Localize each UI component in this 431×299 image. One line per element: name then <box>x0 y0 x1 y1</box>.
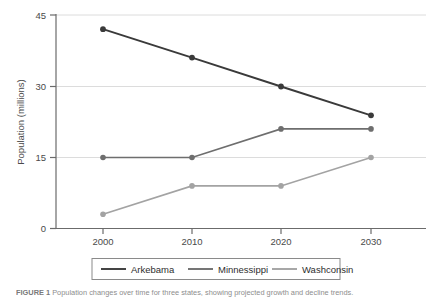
x-axis-ticks <box>103 229 371 235</box>
x-tick-label-2030: 2030 <box>360 236 381 247</box>
data-point <box>278 84 284 90</box>
legend-label-washconsin: Washconsin <box>302 264 353 275</box>
series-washconsin <box>100 155 374 217</box>
x-tick-label-2020: 2020 <box>270 236 291 247</box>
data-point <box>189 155 195 161</box>
data-point <box>368 126 374 132</box>
series-line-washconsin <box>103 158 371 215</box>
data-point <box>189 183 195 189</box>
legend-label-arkebama: Arkebama <box>131 264 175 275</box>
figure-caption-prefix: FIGURE 1 <box>16 288 50 297</box>
figure-container: 45 30 15 0 Population (millions) 2000 20… <box>0 0 431 299</box>
figure-caption-body: Population changes over time for three s… <box>52 288 353 297</box>
line-chart: 45 30 15 0 Population (millions) 2000 20… <box>0 0 431 299</box>
y-tick-label-0: 0 <box>41 223 46 234</box>
axes <box>56 14 426 229</box>
data-point <box>368 155 374 161</box>
y-tick-label-45: 45 <box>35 10 46 21</box>
legend-label-minnessippi: Minnessippi <box>218 264 268 275</box>
series-minnessippi <box>100 126 374 160</box>
data-point <box>278 126 284 132</box>
x-tick-label-2000: 2000 <box>92 236 113 247</box>
series-arkebama <box>100 26 374 118</box>
y-axis-ticks <box>50 15 56 229</box>
data-point <box>189 55 195 61</box>
y-tick-label-15: 15 <box>35 152 46 163</box>
series-line-minnessippi <box>103 129 371 158</box>
data-point <box>100 212 106 218</box>
gridlines <box>56 15 426 158</box>
figure-caption: FIGURE 1 Population changes over time fo… <box>16 288 426 297</box>
data-point <box>278 183 284 189</box>
y-tick-label-30: 30 <box>35 81 46 92</box>
x-tick-label-2010: 2010 <box>181 236 202 247</box>
data-point <box>100 155 106 161</box>
y-axis-title: Population (millions) <box>15 79 26 165</box>
series-line-arkebama <box>103 29 371 115</box>
data-point <box>368 112 374 118</box>
data-point <box>100 26 106 32</box>
chart-legend: Arkebama Minnessippi Washconsin <box>92 259 353 280</box>
